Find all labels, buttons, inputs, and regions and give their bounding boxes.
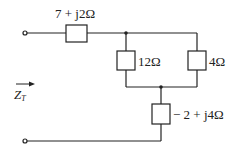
label-zt: ZT [14,87,26,103]
terminal-top [23,31,27,35]
junction-bottom [159,85,163,89]
terminal-bottom [23,139,27,143]
label-4ohm: 4Ω [209,54,225,69]
resistor-4ohm [188,51,206,70]
impedance-top [66,25,87,42]
junction-top [124,31,128,35]
zt-arrow-icon [16,82,35,87]
label-12ohm: 12Ω [138,54,161,69]
label-series-bottom: − 2 + j4Ω [173,107,224,122]
label-series-top: 7 + j2Ω [55,6,95,21]
resistor-12ohm [117,51,135,70]
impedance-bottom [152,104,170,124]
circuit-diagram: 7 + j2Ω 12Ω 4Ω − 2 + j4Ω ZT [0,0,242,153]
